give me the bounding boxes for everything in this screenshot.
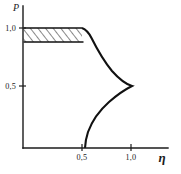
- x-tick-label-0-5: 0,5: [77, 153, 88, 162]
- x-axis-title: η: [158, 150, 165, 165]
- hatched-band-region: [24, 28, 84, 42]
- figure-container: 1,0 0,5 0,5 1,0 P η: [0, 0, 181, 174]
- x-tick-label-1-0: 1,0: [126, 153, 137, 162]
- boundary-curve: [82, 28, 132, 148]
- caption-partial: [0, 166, 181, 174]
- y-axis-title: P: [12, 2, 19, 13]
- y-tick-label-1-0: 1,0: [5, 24, 16, 33]
- plot-canvas: 1,0 0,5 0,5 1,0 P η: [0, 0, 181, 174]
- y-tick-label-0-5: 0,5: [5, 82, 16, 91]
